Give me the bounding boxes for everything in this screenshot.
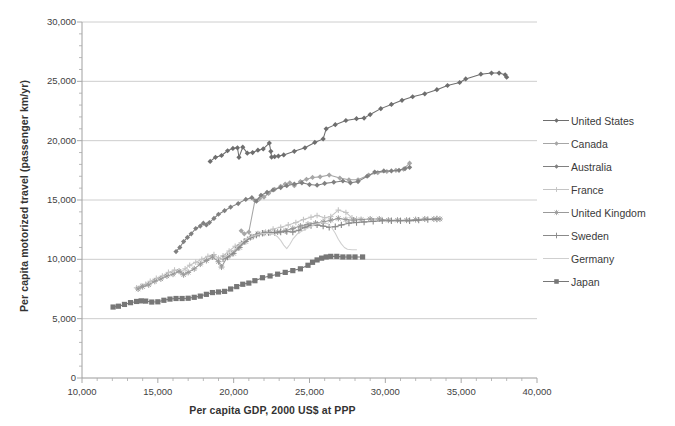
legend-marker-icon: [553, 140, 560, 147]
series-united-kingdom: [135, 215, 443, 292]
legend-swatch-icon: [543, 206, 569, 220]
legend-swatch-icon: [543, 229, 569, 243]
legend-marker-icon: [553, 232, 560, 239]
legend-marker-icon: [553, 209, 560, 216]
legend-label: United States: [569, 115, 634, 127]
legend-label: Sweden: [569, 230, 609, 242]
series-canada: [239, 161, 413, 237]
legend-marker-icon: [553, 186, 560, 193]
x-tick-label: 10,000: [52, 386, 112, 397]
legend-swatch-icon: [543, 183, 569, 197]
series-france: [134, 207, 360, 290]
legend-label: France: [569, 184, 604, 196]
x-tick-label: 20,000: [204, 386, 264, 397]
legend-label: United Kingdom: [569, 207, 646, 219]
legend-swatch-icon: [543, 114, 569, 128]
legend-label: Japan: [569, 276, 600, 288]
gridlines: [82, 22, 537, 319]
legend-item-sweden[interactable]: Sweden: [543, 224, 646, 247]
y-axis-title: Per capita motorized travel (passenger k…: [18, 1, 30, 391]
legend-item-canada[interactable]: Canada: [543, 132, 646, 155]
legend-marker-icon: [553, 278, 560, 285]
series-united-states: [208, 70, 510, 164]
x-tick-label: 30,000: [355, 386, 415, 397]
legend-label: Canada: [569, 138, 608, 150]
legend-label: Germany: [569, 253, 614, 265]
legend-marker-icon: [553, 117, 560, 124]
x-tick-label: 25,000: [280, 386, 340, 397]
legend-item-france[interactable]: France: [543, 178, 646, 201]
legend-item-japan[interactable]: Japan: [543, 270, 646, 293]
legend-item-united-kingdom[interactable]: United Kingdom: [543, 201, 646, 224]
legend-item-united-states[interactable]: United States: [543, 109, 646, 132]
x-tick-label: 15,000: [128, 386, 188, 397]
chart-container: 05,00010,00015,00020,00025,00030,000 10,…: [0, 0, 675, 426]
legend-swatch-icon: [543, 252, 569, 266]
x-tick-label: 40,000: [507, 386, 567, 397]
legend-item-germany[interactable]: Germany: [543, 247, 646, 270]
legend-marker-icon: [553, 163, 560, 170]
axis-ticks: [77, 22, 537, 383]
legend-label: Australia: [569, 161, 612, 173]
legend-swatch-icon: [543, 137, 569, 151]
x-axis-title: Per capita GDP, 2000 US$ at PPP: [0, 404, 545, 416]
legend-swatch-icon: [543, 160, 569, 174]
x-tick-label: 35,000: [431, 386, 491, 397]
data-series-group: [110, 70, 509, 309]
legend: United StatesCanadaAustraliaFranceUnited…: [543, 109, 646, 293]
series-australia: [173, 165, 412, 254]
legend-item-australia[interactable]: Australia: [543, 155, 646, 178]
legend-swatch-icon: [543, 275, 569, 289]
